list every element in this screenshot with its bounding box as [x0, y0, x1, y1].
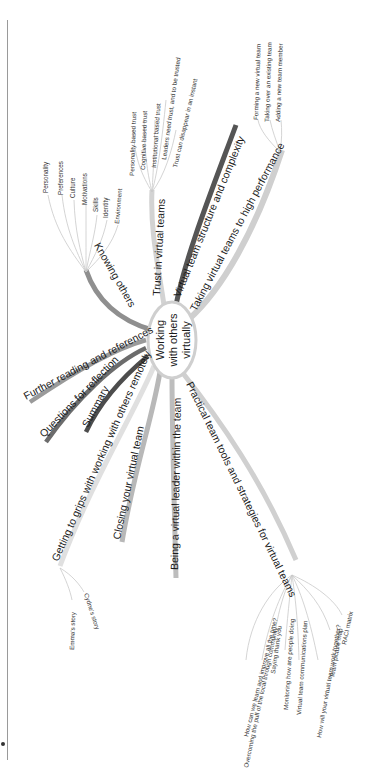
center-line-2: with others: [167, 313, 179, 368]
performance-children: Forming a new virtual team Taking over a…: [252, 42, 285, 122]
subtopic-skills[interactable]: Skills: [92, 197, 99, 212]
subtopic-culture[interactable]: Culture: [69, 177, 76, 198]
subtopic-adding-member[interactable]: Adding a new team member: [274, 43, 285, 122]
subtopic-emma-story[interactable]: Emma's story: [68, 611, 77, 650]
subtopic-forming-team[interactable]: Forming a new virtual team: [252, 44, 263, 120]
twigs-grips: [60, 568, 84, 600]
subtopic-raci-matrix[interactable]: RACI matrix: [340, 610, 354, 645]
trust-children: Personality based trust Cognitive based …: [128, 56, 199, 176]
subtopic-taking-over-team[interactable]: Taking over an existing team: [263, 42, 274, 122]
subtopic-personality[interactable]: Personality: [42, 161, 50, 193]
subtopic-motivations[interactable]: Motivations: [81, 173, 88, 205]
subtopic-cognitive-trust[interactable]: Cognitive based trust: [139, 110, 149, 170]
grips-children: Emma's story Cydne's story: [68, 592, 102, 650]
center-line-1: Working: [154, 320, 166, 360]
branch-label-practical[interactable]: Practical team tools and strategies for …: [184, 380, 299, 599]
center-node[interactable]: Working with others virtually: [148, 302, 196, 378]
subtopic-preferences[interactable]: Preferences: [57, 161, 64, 195]
knowing-children: Personality Preferences Culture Motivati…: [42, 161, 123, 224]
branch-label-leader[interactable]: Being a virtual leader within the team: [168, 397, 183, 570]
subtopic-monitoring-people[interactable]: Monitoring how are people doing: [282, 618, 296, 710]
subtopic-personality-trust[interactable]: Personality based trust: [128, 112, 138, 177]
subtopic-cydne-story[interactable]: Cydne's story: [82, 592, 102, 631]
subtopic-environment[interactable]: Environment: [113, 188, 123, 224]
center-line-3: virtually: [180, 321, 192, 359]
subtopic-identity[interactable]: Identity: [102, 197, 110, 218]
subtopic-communications-plan[interactable]: Virtual team communications plan: [295, 620, 310, 715]
mind-map: Working with others virtually Trust in v…: [0, 0, 366, 781]
